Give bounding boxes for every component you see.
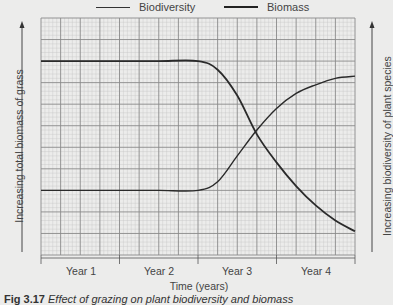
x-tick-year-4: Year 4 [277,265,355,277]
axes [20,21,375,264]
x-tick-year-3: Year 3 [198,265,276,277]
y-axis-left-label: Increasing total biomass of grass [13,41,25,251]
figure-description: Effect of grazing on plant biodiversity … [48,293,293,305]
y-axis-right-arrow-icon [370,21,375,252]
figure-number: Fig 3.17 [4,293,45,305]
figure-caption: Fig 3.17 Effect of grazing on plant biod… [4,293,293,305]
x-tick-year-2: Year 2 [120,265,198,277]
x-axis-label: Time (years) [160,280,238,292]
x-tick-year-1: Year 1 [42,265,120,277]
y-axis-right-label: Increasing biodiversity of plant species [381,31,393,261]
